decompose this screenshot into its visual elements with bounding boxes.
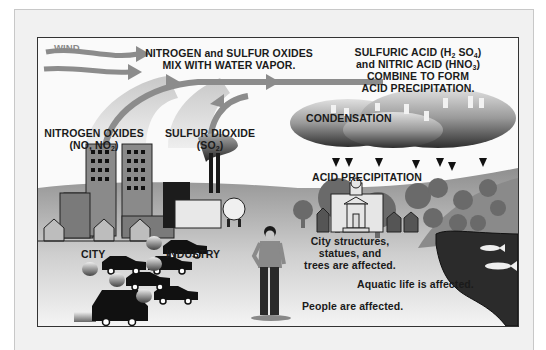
acid-formation-caption: SULFURIC ACID (H2 SO4) and NITRIC ACID (… xyxy=(343,46,493,94)
nitrogen-oxides-label: NITROGEN OXIDES (NO, NO2) xyxy=(41,127,147,151)
industry-label: INDUSTRY xyxy=(166,248,220,260)
structures-affected-caption: City structures, statues, and trees are … xyxy=(300,235,400,271)
diagram-panel: WIND NITROGEN and SULFUR OXIDES MIX WITH… xyxy=(37,37,519,327)
condensation-label: CONDENSATION xyxy=(306,112,392,124)
acid-precipitation-label: ACID PRECIPITATION xyxy=(312,171,422,183)
wind-label: WIND xyxy=(54,42,80,54)
mix-caption: NITROGEN and SULFUR OXIDES MIX WITH WATE… xyxy=(139,47,319,71)
aquatic-affected-caption: Aquatic life is affected. xyxy=(357,278,474,290)
city-label: CITY xyxy=(81,248,105,260)
sulfur-dioxide-label: SULFUR DIOXIDE (SO2) xyxy=(162,127,258,151)
people-affected-caption: People are affected. xyxy=(302,300,403,312)
